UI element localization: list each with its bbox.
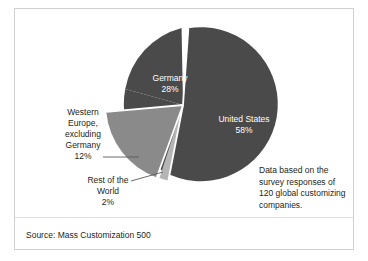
pie-label-germany-title: Germany (133, 73, 207, 84)
pie-label-rest-of-world-line2: World (71, 186, 145, 197)
chart-annotation-line3: 120 global customizing (259, 188, 355, 200)
chart-annotation-line2: survey responses of (259, 177, 355, 189)
pie-label-germany-value: 28% (133, 84, 207, 95)
chart-annotation-line1: Data based on the (259, 165, 355, 177)
pie-label-rest-of-world-value: 2% (71, 197, 145, 208)
chart-frame: Germany 28% United States 58% Western Eu… (14, 8, 354, 250)
pie-label-western-europe: Western Europe, excluding Germany 12% (47, 107, 119, 162)
source-note: Source: Mass Customization 500 (26, 229, 151, 241)
chart-annotation: Data based on the survey responses of 12… (259, 165, 355, 211)
pie-label-united-states-title: United States (201, 114, 287, 125)
pie-label-western-europe-value: 12% (47, 151, 119, 162)
pie-label-united-states: United States 58% (201, 114, 287, 136)
pie-label-united-states-value: 58% (201, 125, 287, 136)
pie-label-rest-of-world: Rest of the World 2% (71, 175, 145, 208)
pie-label-germany: Germany 28% (133, 73, 207, 95)
pie-label-western-europe-line1: Western (47, 107, 119, 118)
pie-label-western-europe-line4: Germany (47, 140, 119, 151)
chart-annotation-line4: companies. (259, 200, 355, 212)
pie-label-western-europe-line2: Europe, (47, 118, 119, 129)
pie-label-rest-of-world-line1: Rest of the (71, 175, 145, 186)
source-divider (15, 217, 353, 218)
pie-label-western-europe-line3: excluding (47, 129, 119, 140)
pie-chart-plot-area: Germany 28% United States 58% Western Eu… (15, 9, 353, 211)
